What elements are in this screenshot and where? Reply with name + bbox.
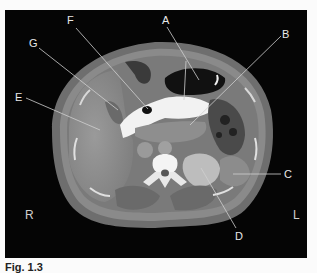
label-b: B (282, 29, 289, 40)
orientation-right-label: R (25, 210, 34, 221)
ct-scan-figure: F A B G E C D R L (5, 10, 307, 258)
label-f: F (67, 15, 74, 26)
orientation-left-label: L (293, 210, 300, 221)
figure-caption: Fig. 1.3 (5, 261, 43, 273)
ct-scan-image (5, 10, 307, 258)
label-g: G (29, 38, 38, 49)
label-e: E (15, 92, 22, 103)
label-d: D (235, 231, 243, 242)
label-c: C (284, 169, 292, 180)
label-a: A (162, 15, 169, 26)
